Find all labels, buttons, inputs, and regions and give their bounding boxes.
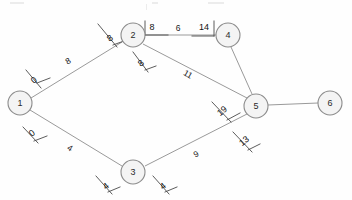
- edge-4-5: [231, 47, 252, 94]
- node-3[interactable]: 3: [121, 160, 145, 184]
- node-6-label: 6: [327, 98, 332, 108]
- graph-svg: 1 2 3 4 5 6 8 4: [0, 0, 352, 200]
- node-1[interactable]: 1: [8, 91, 32, 115]
- node-6[interactable]: 6: [318, 91, 342, 115]
- edge-weight-3-5: 9: [192, 148, 201, 159]
- scan-artifact-top-right: [208, 2, 224, 4]
- edge-weight-1-2: 8: [63, 55, 72, 66]
- scan-artifact-vline: [146, 4, 147, 10]
- node-5-lower-distance: 13: [237, 134, 251, 148]
- bracket-node-5-lower-2: [248, 144, 260, 150]
- node-5-upper-distance: 19: [215, 104, 229, 118]
- edge-1-3: [30, 110, 122, 166]
- node-2[interactable]: 2: [121, 23, 145, 47]
- scan-artifact-top-mid: [152, 2, 158, 4]
- node-4-left-distance: 14: [199, 22, 209, 32]
- scan-artifacts-group: [10, 2, 224, 10]
- edge-1-2: [31, 42, 122, 98]
- node-2-left-distance: 8: [105, 33, 115, 44]
- edge-5-6: [268, 103, 318, 105]
- node-3-left-distance: 4: [101, 181, 111, 192]
- node-1-label: 1: [17, 98, 22, 108]
- node-4-label: 4: [225, 30, 230, 40]
- bracket-node-1-lower-2: [34, 136, 47, 141]
- node-5[interactable]: 5: [244, 94, 268, 118]
- node-3-right-distance: 4: [158, 181, 168, 192]
- nodes-group: 1 2 3 4 5 6: [8, 23, 342, 184]
- edge-2-5: [143, 44, 247, 98]
- node-2-label: 2: [130, 30, 135, 40]
- scan-artifact-top-left: [10, 2, 24, 4]
- edge-weight-2-4: 6: [176, 23, 181, 33]
- node-1-lower-distance: 0: [27, 128, 37, 139]
- node-3-label: 3: [130, 167, 135, 177]
- node-4[interactable]: 4: [216, 23, 240, 47]
- node-2-top-distance: 8: [149, 22, 154, 32]
- graph-diagram-canvas: 1 2 3 4 5 6 8 4: [0, 0, 352, 200]
- edge-weight-1-3: 4: [65, 142, 74, 153]
- node-5-label: 5: [253, 101, 258, 111]
- bracket-node-2-lower-2: [145, 66, 156, 70]
